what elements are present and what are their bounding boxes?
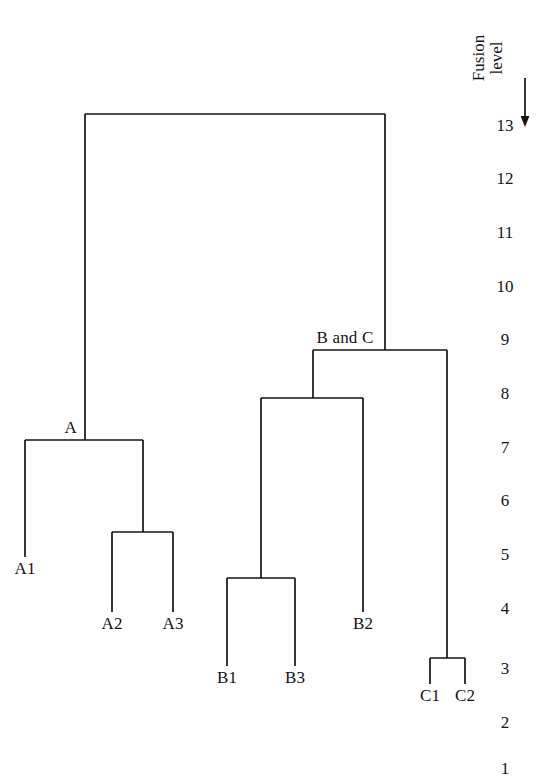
cluster-label-a: A (65, 419, 77, 436)
axis-tick-12: 12 (497, 170, 514, 187)
axis-tick-6: 6 (501, 492, 510, 509)
axis-tick-1: 1 (501, 760, 510, 777)
axis-tick-5: 5 (501, 546, 510, 563)
cluster-label-b-and-c: B and C (316, 329, 373, 346)
leaf-label-b2: B2 (353, 615, 373, 632)
leaf-label-b1: B1 (217, 669, 237, 686)
axis-tick-9: 9 (501, 331, 510, 348)
leaf-label-b3: B3 (285, 669, 305, 686)
leaf-label-a1: A1 (14, 560, 35, 577)
axis-tick-13: 13 (497, 117, 514, 134)
axis-title-line1: Fusion (470, 10, 488, 106)
leaf-label-a2: A2 (101, 615, 122, 632)
leaf-label-c1: C1 (420, 687, 440, 704)
axis-tick-4: 4 (501, 600, 510, 617)
tree-line-group (25, 114, 465, 684)
axis-tick-8: 8 (501, 385, 510, 402)
leaf-label-a3: A3 (162, 615, 183, 632)
axis-tick-7: 7 (501, 439, 510, 456)
axis-tick-3: 3 (501, 660, 510, 677)
axis-tick-10: 10 (497, 278, 514, 295)
axis-title-line2: level (488, 10, 506, 106)
axis-tick-11: 11 (497, 224, 513, 241)
axis-tick-2: 2 (501, 714, 510, 731)
leaf-label-c2: C2 (455, 687, 475, 704)
axis-direction-arrow (516, 78, 534, 128)
